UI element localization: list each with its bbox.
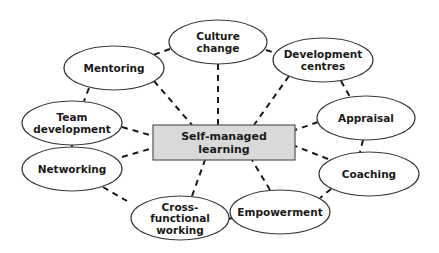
connector-mentoring-to-team-development: [84, 88, 89, 101]
node-label: functional: [150, 212, 210, 224]
connector-development-centres-to-self-managed-learning: [254, 76, 289, 125]
connector-cross-functional-working-to-self-managed-learning: [192, 160, 205, 196]
node-label: centres: [301, 60, 345, 72]
node-coaching: Coaching: [319, 152, 419, 196]
node-label: Cross-: [162, 201, 199, 213]
connector-mentoring-to-self-managed-learning: [154, 81, 192, 125]
self-managed-learning-diagram: Self-managedlearning CulturechangeMentor…: [0, 0, 439, 253]
node-label: Coaching: [342, 168, 396, 180]
node-cross-functional-working: Cross-functionalworking: [131, 196, 229, 240]
node-label: Empowerment: [237, 206, 322, 218]
node-label: Self-managed: [181, 130, 267, 143]
node-team-development: Teamdevelopment: [22, 101, 122, 145]
node-label: Development: [284, 48, 363, 60]
connector-appraisal-to-coaching: [360, 140, 363, 152]
connector-team-development-to-self-managed-learning: [122, 127, 153, 136]
center-node-self-managed-learning: Self-managedlearning: [153, 125, 295, 160]
connector-culture-change-to-mentoring: [153, 49, 170, 55]
node-label: Team: [57, 111, 88, 123]
node-empowerment: Empowerment: [230, 190, 330, 234]
node-label: Culture: [196, 30, 240, 42]
node-label: development: [33, 123, 111, 135]
node-networking: Networking: [22, 147, 122, 191]
node-label: working: [156, 224, 204, 236]
node-appraisal: Appraisal: [317, 96, 415, 140]
node-label: change: [197, 42, 240, 54]
node-culture-change: Culturechange: [169, 20, 267, 64]
connector-coaching-to-empowerment: [320, 189, 331, 198]
node-label: Networking: [38, 163, 107, 175]
connector-appraisal-to-self-managed-learning: [295, 122, 318, 130]
node-label: Mentoring: [83, 62, 144, 74]
node-mentoring: Mentoring: [64, 46, 164, 90]
connector-networking-to-self-managed-learning: [122, 148, 153, 157]
connector-empowerment-to-self-managed-learning: [252, 160, 270, 190]
connector-development-centres-to-appraisal: [341, 81, 350, 97]
connector-coaching-to-self-managed-learning: [295, 146, 328, 159]
connector-culture-change-to-development-centres: [266, 50, 275, 53]
node-label: Appraisal: [338, 112, 394, 124]
connector-networking-to-cross-functional-working: [103, 187, 127, 201]
node-development-centres: Developmentcentres: [273, 38, 373, 82]
node-label: learning: [198, 143, 249, 156]
